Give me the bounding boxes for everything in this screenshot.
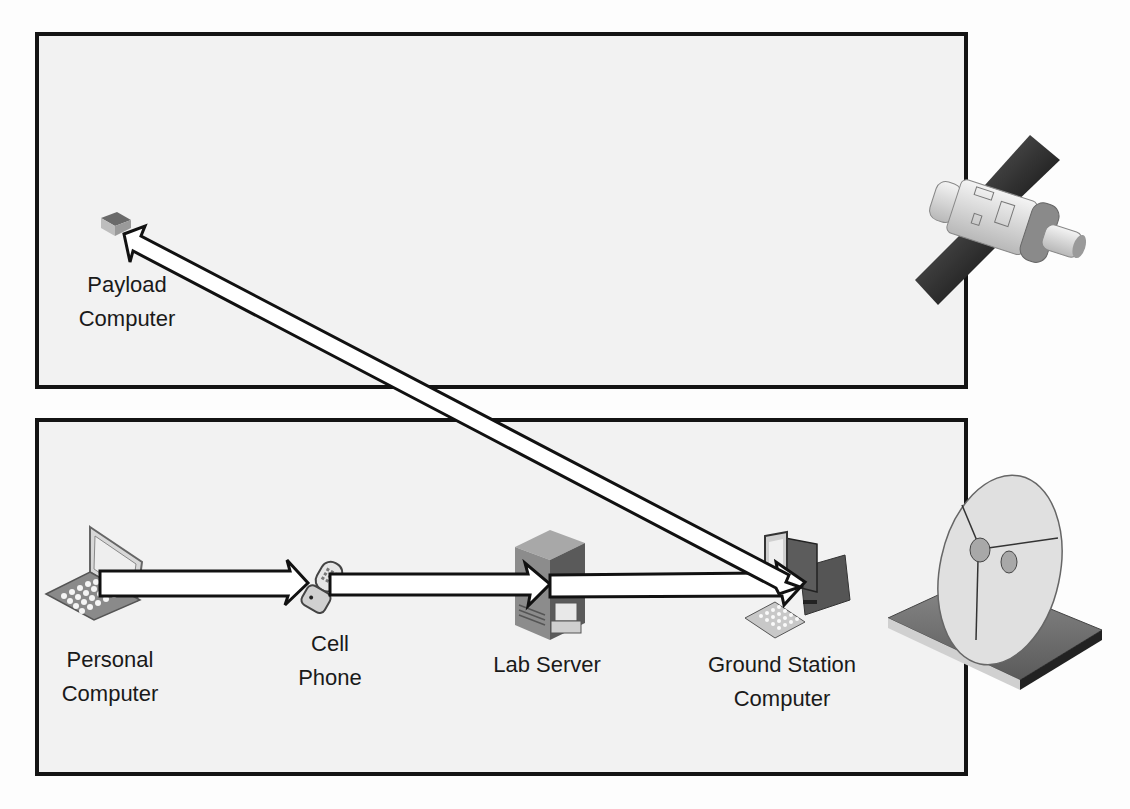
ground-station-computer-label-line1: Ground Station <box>708 648 856 682</box>
ground-station-computer-label: Ground Station Computer <box>708 648 856 716</box>
ground-station-computer-label-line2: Computer <box>708 682 856 716</box>
payload-computer-label-line1: Payload <box>79 268 176 302</box>
arrows-layer <box>0 0 1130 809</box>
cell-phone-label-line1: Cell <box>298 627 362 661</box>
personal-computer-label: Personal Computer <box>62 643 159 711</box>
personal-computer-label-line2: Computer <box>62 677 159 711</box>
payload-computer-label: Payload Computer <box>79 268 176 336</box>
personal-computer-label-line1: Personal <box>62 643 159 677</box>
payload-computer-label-line2: Computer <box>79 302 176 336</box>
lab-server-label-line1: Lab Server <box>493 648 601 682</box>
arrow-phone-to-server <box>330 563 550 606</box>
arrow-pc-to-phone <box>100 560 308 605</box>
cell-phone-label-line2: Phone <box>298 661 362 695</box>
lab-server-label: Lab Server <box>493 648 601 682</box>
cell-phone-label: Cell Phone <box>298 627 362 695</box>
arrow-ground-to-payload <box>124 226 800 594</box>
